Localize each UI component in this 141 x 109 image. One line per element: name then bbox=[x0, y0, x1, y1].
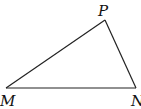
triangle-diagram: P M N bbox=[0, 0, 141, 109]
vertex-label-m: M bbox=[0, 92, 16, 109]
vertex-label-p: P bbox=[97, 2, 109, 20]
side-mp bbox=[6, 20, 105, 88]
side-pn bbox=[105, 20, 136, 88]
vertex-label-n: N bbox=[130, 92, 141, 109]
